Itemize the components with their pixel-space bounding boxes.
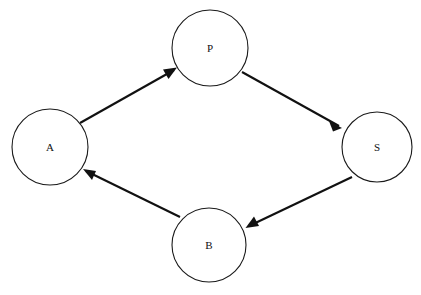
node-a[interactable]: A: [12, 109, 88, 185]
diagram-canvas: A P S B: [0, 0, 421, 295]
edge-b-to-a[interactable]: [83, 169, 180, 217]
edge-p-to-s[interactable]: [242, 72, 342, 132]
node-s-label: S: [374, 141, 380, 153]
edge-p-to-s-arrowhead: [329, 121, 342, 132]
edge-p-to-s-line: [242, 72, 339, 126]
edge-s-to-b-line: [249, 177, 352, 226]
node-b-label: B: [205, 239, 212, 251]
node-b[interactable]: B: [172, 208, 246, 282]
node-p[interactable]: P: [172, 10, 248, 86]
node-a-label: A: [46, 141, 54, 153]
edge-a-to-p-line: [80, 70, 174, 123]
node-s[interactable]: S: [342, 112, 412, 182]
edge-s-to-b[interactable]: [246, 177, 353, 228]
edge-a-to-p-arrowhead: [163, 68, 177, 80]
edge-s-to-b-arrowhead: [246, 217, 260, 229]
edge-b-to-a-arrowhead: [83, 169, 96, 180]
edge-a-to-p[interactable]: [80, 68, 177, 124]
node-p-label: P: [207, 42, 213, 54]
cycle-diagram: A P S B: [0, 0, 421, 295]
edge-b-to-a-line: [86, 171, 180, 217]
